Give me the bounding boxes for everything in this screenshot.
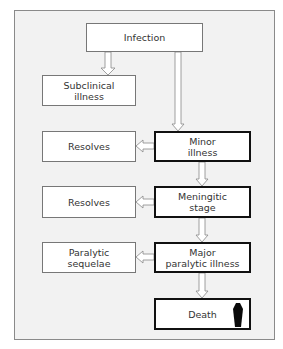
arrow-major-to-sequelae [136, 251, 154, 263]
arrow-minor-to-meningitic [196, 162, 208, 186]
node-major-paralytic-illness: Major paralytic illness [154, 242, 251, 273]
arrow-major-to-death [196, 273, 208, 298]
node-resolves-2: Resolves [42, 186, 136, 218]
coffin-icon [233, 303, 243, 327]
node-resolves-1: Resolves [42, 131, 136, 162]
flow-arrows [0, 0, 283, 349]
node-infection: Infection [86, 23, 203, 52]
arrow-minor-to-resolves [136, 140, 154, 152]
node-minor-illness: Minor illness [154, 131, 251, 162]
arrow-infection-to-subclinical [101, 52, 115, 75]
arrow-meningitic-to-resolves [136, 196, 154, 208]
arrow-infection-to-minor [172, 52, 184, 131]
node-meningitic-stage: Meningitic stage [154, 186, 251, 218]
node-paralytic-sequelae: Paralytic sequelae [42, 242, 136, 273]
node-subclinical-illness: Subclinical illness [42, 75, 136, 106]
arrow-meningitic-to-major [196, 218, 208, 242]
